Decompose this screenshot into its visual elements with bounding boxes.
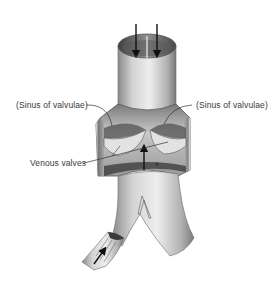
vein-illustration — [0, 0, 278, 288]
upper-vein-segment — [118, 34, 176, 114]
label-sinus-right: (Sinus of valvulae) — [196, 100, 268, 110]
opened-valve-section — [96, 104, 190, 176]
lower-vein-segment — [112, 171, 194, 256]
label-sinus-left: (Sinus of valvulae) — [16, 100, 88, 110]
label-venous-valves: Venous valves — [30, 158, 86, 168]
venous-valve-diagram: (Sinus of valvulae) (Sinus of valvulae) … — [0, 0, 278, 288]
